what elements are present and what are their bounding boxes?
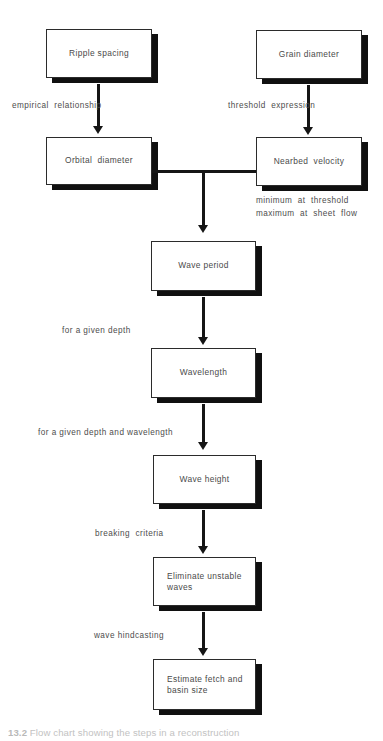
node-wave-period: Wave period — [151, 241, 256, 291]
node-eliminate-unstable-waves: Eliminate unstable waves — [153, 557, 256, 606]
edge-line-eliminate-to-estimate — [202, 612, 205, 650]
node-nearbed-velocity-label: Nearbed velocity — [257, 156, 361, 168]
arrowhead-join-to-wave-period — [198, 225, 208, 233]
node-ripple-spacing: Ripple spacing — [46, 29, 152, 78]
node-estimate-fetch-basin-size-label: Estimate fetch and basin size — [154, 673, 255, 696]
node-wavelength-label: Wavelength — [152, 367, 255, 379]
arrowhead-ripple-to-orbital — [93, 126, 103, 134]
arrowhead-grain-to-nearbed — [303, 127, 313, 135]
node-orbital-diameter: Orbital diameter — [46, 137, 152, 185]
edge-line-height-to-eliminate — [202, 510, 205, 548]
edge-label-for-a-given-depth: for a given depth — [62, 326, 131, 335]
node-estimate-fetch-basin-size: Estimate fetch and basin size — [153, 659, 256, 710]
edge-label-threshold-expression: threshold expression — [228, 101, 315, 110]
figure-caption-text: Flow chart showing the steps in a recons… — [30, 727, 240, 738]
node-wave-period-label: Wave period — [152, 260, 255, 272]
node-ripple-spacing-label: Ripple spacing — [47, 48, 151, 60]
edge-label-wave-hindcasting: wave hindcasting — [94, 631, 164, 640]
node-grain-diameter: Grain diameter — [256, 30, 362, 79]
figure-caption: 13.2 Flow chart showing the steps in a r… — [8, 727, 383, 738]
edge-label-empirical-relationship: empirical relationship — [12, 101, 102, 110]
edge-line-period-to-wavelength — [202, 297, 205, 339]
figure-caption-number: 13.2 — [8, 727, 27, 738]
edge-label-breaking-criteria: breaking criteria — [95, 529, 164, 538]
flowchart-diagram: Ripple spacing Grain diameter empirical … — [0, 0, 383, 741]
edge-label-minimum-at-threshold: minimum at threshold — [256, 196, 349, 205]
node-eliminate-unstable-waves-label: Eliminate unstable waves — [154, 570, 255, 593]
edge-label-maximum-at-sheet-flow: maximum at sheet flow — [256, 209, 357, 218]
node-wave-height: Wave height — [153, 455, 256, 504]
arrowhead-height-to-eliminate — [198, 546, 208, 554]
edge-label-for-a-given-depth-and-wavelength: for a given depth and wavelength — [38, 428, 173, 437]
node-grain-diameter-label: Grain diameter — [257, 49, 361, 61]
arrowhead-period-to-wavelength — [198, 337, 208, 345]
edge-line-wavelength-to-height — [202, 404, 205, 444]
node-nearbed-velocity: Nearbed velocity — [256, 137, 362, 186]
node-wave-height-label: Wave height — [154, 474, 255, 486]
arrowhead-eliminate-to-estimate — [198, 648, 208, 656]
edge-line-join-to-wave-period — [202, 170, 205, 227]
node-wavelength: Wavelength — [151, 348, 256, 398]
node-orbital-diameter-label: Orbital diameter — [47, 155, 151, 167]
arrowhead-wavelength-to-height — [198, 442, 208, 450]
